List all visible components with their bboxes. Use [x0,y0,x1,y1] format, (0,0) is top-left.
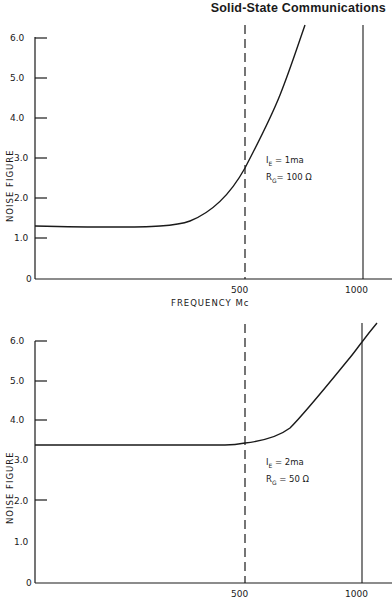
bottom-xtick-label-1000: 1000 [345,589,368,598]
top-annotation-rg: RG= 100 Ω [266,172,312,184]
top-ytick-label-3: 3.0 [14,153,29,163]
top-noise-curve [35,25,305,227]
bottom-ytick-label-2: 2.0 [14,496,29,506]
top-ytick-label-0: 0 [26,274,32,284]
top-xtick-label-500: 500 [231,285,248,295]
bottom-y-axis-title: NOISE FIGURE [5,451,15,524]
top-annotation-ie: IE = 1ma [266,155,304,167]
bottom-ytick-label-4: 4.0 [10,415,25,425]
top-chart-labels: 6.0 5.0 4.0 3.0 2.0 1.0 0 500 1000 FREQU… [5,33,368,308]
top-ytick-label-4: 4.0 [10,113,25,123]
top-ytick-label-5: 5.0 [10,73,25,83]
bottom-annotation-ie: IE = 2ma [266,457,304,469]
top-ytick-label-6: 6.0 [10,33,25,43]
top-ytick-label-2: 2.0 [14,193,29,203]
bottom-ytick-label-0: 0 [26,578,32,588]
bottom-ytick-label-6: 6.0 [10,336,25,346]
charts-canvas: 6.0 5.0 4.0 3.0 2.0 1.0 0 500 1000 FREQU… [0,0,392,598]
top-chart [35,25,392,279]
bottom-xtick-label-500: 500 [231,589,248,598]
bottom-noise-curve [35,323,377,445]
top-y-axis-title: NOISE FIGURE [5,149,15,222]
bottom-chart-labels: 6.0 5.0 4.0 3.0 2.0 1.0 0 500 1000 NOISE… [5,336,368,598]
bottom-ytick-label-5: 5.0 [10,376,25,386]
bottom-ytick-label-1: 1.0 [14,537,29,547]
top-x-axis-title: FREQUENCY Mc [171,298,250,308]
bottom-annotation-rg: RG = 50 Ω [266,474,310,486]
bottom-ytick-label-3: 3.0 [14,455,29,465]
top-ytick-label-1: 1.0 [14,233,29,243]
top-xtick-label-1000: 1000 [345,285,368,295]
bottom-chart [35,323,392,583]
